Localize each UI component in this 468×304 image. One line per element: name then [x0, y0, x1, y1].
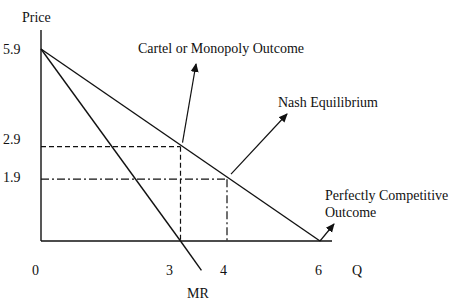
- monopoly-outcome-arrow: [183, 64, 197, 143]
- mr-curve: [41, 49, 181, 241]
- y-tick-label: 5.9: [3, 42, 21, 57]
- x-axis-label: Q: [352, 263, 362, 278]
- competitive-outcome-arrow: [320, 224, 334, 241]
- competitive-outcome-label-line2: Outcome: [325, 205, 376, 220]
- monopoly-outcome-label: Cartel or Monopoly Outcome: [138, 41, 304, 56]
- mr-curve: [181, 241, 202, 270]
- x-tick-label: 6: [315, 263, 322, 278]
- y-axis-label: Price: [22, 10, 51, 25]
- mr-label: MR: [187, 286, 209, 301]
- oligopoly-diagram: Price Q 5.9 2.9 1.9 0 3 4 6 Cartel or Mo…: [0, 0, 468, 304]
- y-tick-label: 1.9: [3, 170, 21, 185]
- x-tick-label: 0: [32, 263, 39, 278]
- competitive-outcome-label-line1: Perfectly Competitive: [325, 188, 448, 203]
- nash-equilibrium-arrow: [231, 114, 287, 174]
- x-tick-label: 3: [166, 263, 173, 278]
- y-tick-label: 2.9: [3, 132, 21, 147]
- x-tick-label: 4: [220, 263, 227, 278]
- nash-equilibrium-label: Nash Equilibrium: [278, 95, 378, 110]
